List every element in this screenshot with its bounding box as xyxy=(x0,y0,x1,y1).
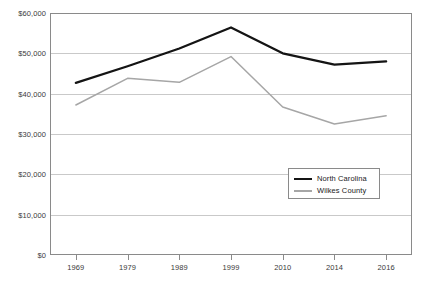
legend-item-wilkes-county: Wilkes County xyxy=(294,185,374,196)
legend-label-wilkes-county: Wilkes County xyxy=(317,186,366,195)
series-lines xyxy=(0,0,431,288)
legend-swatch-north-carolina xyxy=(294,178,312,180)
legend-item-north-carolina: North Carolina xyxy=(294,173,374,184)
series-line-wilkes-county xyxy=(76,57,386,124)
chart-legend: North Carolina Wilkes County xyxy=(288,168,380,199)
legend-label-north-carolina: North Carolina xyxy=(317,174,367,183)
legend-swatch-wilkes-county xyxy=(294,190,312,192)
series-line-north-carolina xyxy=(76,28,386,83)
line-chart: $0$10,000$20,000$30,000$40,000$50,000$60… xyxy=(0,0,431,288)
